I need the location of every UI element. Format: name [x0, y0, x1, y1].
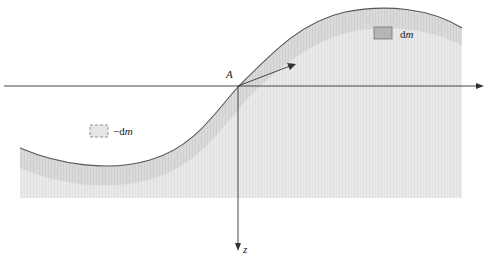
origin-label: A: [225, 68, 233, 80]
x-axis-arrowhead: [476, 83, 484, 89]
z-axis-arrowhead: [235, 243, 241, 251]
negative-mass-box: [90, 125, 108, 137]
mass-element-box: [374, 27, 392, 39]
wave-mass-diagram: A z dm −dm: [0, 0, 487, 263]
mass-element-label: dm: [400, 28, 414, 40]
negative-mass-label: −dm: [113, 125, 133, 137]
z-axis-label: z: [242, 243, 248, 255]
